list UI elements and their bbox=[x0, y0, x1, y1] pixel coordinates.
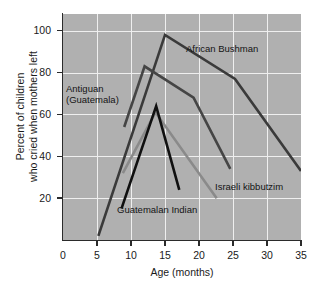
y-axis-title: Percent of children who cried when mothe… bbox=[14, 17, 39, 217]
y-tick-mark bbox=[57, 114, 62, 115]
x-tick-mark bbox=[96, 241, 97, 246]
annotation-antiguan: Antiguan (Guatemala) bbox=[66, 84, 119, 105]
x-tick-mark bbox=[300, 241, 301, 246]
y-tick-mark bbox=[57, 72, 62, 73]
annotation-antiguan-line1: Antiguan bbox=[66, 84, 119, 95]
x-tick-mark bbox=[232, 241, 233, 246]
annotation-guatemalan-indian: Guatemalan Indian bbox=[117, 205, 197, 216]
x-tick-label: 35 bbox=[281, 250, 316, 261]
annotation-israeli-kibbutzim: Israeli kibbutzim bbox=[215, 182, 283, 193]
x-axis-title: Age (months) bbox=[63, 266, 301, 278]
x-tick-mark bbox=[266, 241, 267, 246]
x-tick-mark bbox=[164, 241, 165, 246]
x-tick-mark bbox=[198, 241, 199, 246]
y-tick-mark bbox=[57, 30, 62, 31]
chart-figure: 20406080100 05101520253035 Percent of ch… bbox=[0, 0, 316, 288]
annotation-african-bushman: African Bushman bbox=[186, 44, 258, 55]
y-tick-mark bbox=[57, 156, 62, 157]
y-axis-title-line2: who cried when mothers left bbox=[26, 17, 39, 217]
y-axis-title-line1: Percent of children bbox=[14, 17, 27, 217]
x-tick-mark bbox=[130, 241, 131, 246]
annotation-antiguan-line2: (Guatemala) bbox=[66, 95, 119, 106]
y-tick-mark bbox=[57, 197, 62, 198]
